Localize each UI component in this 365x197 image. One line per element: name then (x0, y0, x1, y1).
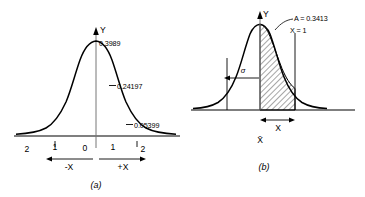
area-value-label-b: A = 0.3413 (294, 14, 328, 23)
negative-x-arrowhead-a (46, 156, 52, 161)
figure-root: 0.3989 Y 0.24197 0.05399 2 1 0 1 2 -X (0, 0, 365, 197)
panel-b: Y A = 0.3413 X = 1 σ X X̄ (b) (183, 0, 365, 197)
x-tick-label-minus1-a: 1 (53, 142, 58, 152)
mean-label-b: X̄ (257, 135, 263, 145)
x-tick-label-plus2-a: 2 (141, 144, 146, 154)
panel-caption-a: (a) (91, 180, 102, 190)
panel-a: 0.3989 Y 0.24197 0.05399 2 1 0 1 2 -X (0, 0, 183, 197)
x-span-arrowhead-right-b (289, 117, 295, 122)
y-axis-arrow-a (93, 27, 99, 35)
peak-value-label-a: 0.3989 (99, 39, 120, 48)
positive-x-arrowhead-a (140, 156, 146, 161)
x-tick-label-zero-a: 0 (83, 143, 88, 153)
x-equals-one-label-b: X = 1 (290, 26, 307, 35)
negative-x-label-a: -X (65, 162, 74, 172)
y-axis-arrow-b (257, 11, 263, 19)
shaded-area-region-b (260, 25, 295, 111)
point-value-label-2-a: 0.05399 (134, 121, 159, 130)
y-axis-label-b: Y (263, 9, 269, 19)
x-span-arrowhead-left-b (260, 117, 266, 122)
panel-caption-b: (b) (259, 162, 270, 172)
sigma-label-b: σ (241, 66, 246, 75)
positive-x-label-a: +X (118, 162, 129, 172)
panel-a-svg: 0.3989 Y 0.24197 0.05399 2 1 0 1 2 -X (0, 0, 183, 197)
x-tick-label-minus2-a: 2 (25, 144, 30, 154)
panel-b-svg: Y A = 0.3413 X = 1 σ X X̄ (b) (183, 0, 365, 197)
point-value-label-1-a: 0.24197 (117, 82, 142, 91)
x-tick-label-plus1-a: 1 (111, 142, 116, 152)
y-axis-label-a: Y (100, 25, 106, 35)
x-span-label-b: X (275, 123, 281, 133)
